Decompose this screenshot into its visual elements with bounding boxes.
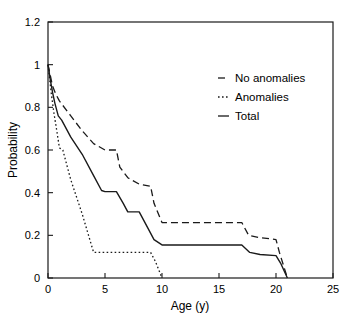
y-axis-tick-labels: 00.20.40.60.811.2 — [25, 16, 40, 284]
plot-frame — [48, 22, 333, 278]
x-axis-tick-labels: 0510152025 — [45, 283, 339, 295]
y-axis-title: Probability — [6, 122, 20, 178]
legend-label: No anomalies — [235, 72, 306, 84]
chart-figure: 0510152025 00.20.40.60.811.2 Age (y) Pro… — [0, 0, 347, 318]
plot-border — [48, 22, 333, 278]
y-tick-label: 0 — [34, 272, 40, 284]
x-tick-label: 0 — [45, 283, 51, 295]
x-tick-label: 10 — [156, 283, 168, 295]
legend-label: Total — [235, 110, 259, 122]
x-tick-label: 5 — [102, 283, 108, 295]
y-tick-label: 1.2 — [25, 16, 40, 28]
y-tick-label: 0.6 — [25, 144, 40, 156]
y-tick-label: 0.4 — [25, 187, 40, 199]
y-tick-label: 1 — [34, 59, 40, 71]
x-tick-label: 20 — [270, 283, 282, 295]
legend-label: Anomalies — [235, 91, 289, 103]
y-tick-label: 0.2 — [25, 229, 40, 241]
x-tick-label: 25 — [327, 283, 339, 295]
x-axis-title: Age (y) — [171, 299, 210, 313]
chart-canvas: 0510152025 00.20.40.60.811.2 Age (y) Pro… — [0, 0, 347, 318]
x-tick-label: 15 — [213, 283, 225, 295]
y-tick-label: 0.8 — [25, 101, 40, 113]
